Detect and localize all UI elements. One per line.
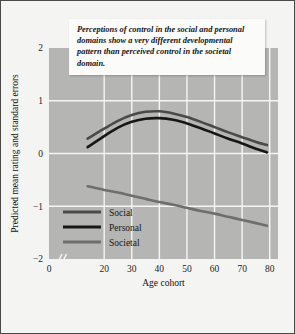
x-tick-label: 30: [127, 264, 137, 274]
y-tick-label: 1: [38, 96, 43, 106]
y-tick-label: 2: [38, 43, 43, 53]
caption-callout: Perceptions of control in the social and…: [69, 19, 265, 75]
y-axis-title: Predicted mean rating and standard error…: [10, 74, 20, 233]
x-tick-label: 0: [47, 264, 52, 274]
y-tick-label: −2: [33, 254, 43, 264]
y-tick-label: −1: [33, 202, 43, 212]
caption-text: Perceptions of control in the social and…: [77, 24, 258, 69]
x-tick-label: 80: [265, 264, 275, 274]
figure-frame: 210−1−2020304050607080Age cohortPredicte…: [0, 0, 295, 334]
x-tick-label: 60: [210, 264, 220, 274]
x-tick-label: 50: [182, 264, 192, 274]
legend-label-social: Social: [109, 208, 133, 218]
x-tick-label: 40: [155, 264, 165, 274]
x-tick-label: 20: [99, 264, 109, 274]
x-axis-title: Age cohort: [142, 278, 185, 288]
legend-label-personal: Personal: [109, 223, 142, 233]
legend-label-societal: Societal: [109, 238, 140, 248]
x-tick-label: 70: [237, 264, 247, 274]
y-tick-label: 0: [38, 149, 43, 159]
